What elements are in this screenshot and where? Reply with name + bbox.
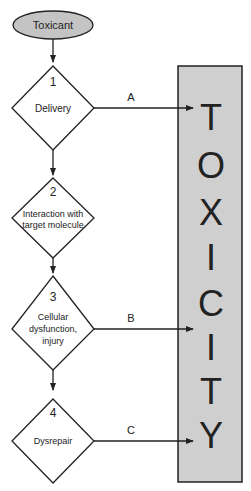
- svg-text:4: 4: [50, 406, 57, 420]
- svg-text:3: 3: [50, 290, 57, 304]
- svg-text:Delivery: Delivery: [35, 103, 71, 114]
- letter: T: [200, 371, 222, 412]
- step-1-delivery: 1 Delivery: [12, 66, 94, 150]
- step-3-cellular-dysfunction: 3 Cellular dysfunction, injury: [12, 276, 94, 370]
- letter: C: [198, 283, 224, 324]
- svg-text:C: C: [127, 424, 135, 436]
- step-2-interaction: 2 Interaction with target molecule: [12, 178, 94, 258]
- toxicant-label: Toxicant: [33, 19, 73, 31]
- letter: I: [206, 327, 216, 368]
- letter: T: [200, 97, 222, 138]
- letter: O: [197, 145, 225, 186]
- svg-text:target molecule: target molecule: [22, 220, 84, 230]
- svg-text:A: A: [127, 91, 135, 103]
- svg-text:dysfunction,: dysfunction,: [29, 324, 77, 334]
- svg-text:B: B: [127, 312, 134, 324]
- svg-text:Dysrepair: Dysrepair: [34, 436, 73, 446]
- svg-text:injury: injury: [42, 336, 64, 346]
- svg-text:Interaction with: Interaction with: [23, 209, 84, 219]
- toxicity-flowchart: T O X I C I T Y Toxicant 1 Delivery 2 In…: [0, 0, 251, 491]
- svg-text:2: 2: [50, 185, 57, 199]
- step-4-dysrepair: 4 Dysrepair: [12, 399, 94, 483]
- svg-text:1: 1: [50, 75, 57, 89]
- letter: Y: [199, 415, 223, 456]
- svg-text:Cellular: Cellular: [38, 312, 69, 322]
- letter: I: [206, 237, 216, 278]
- letter: X: [199, 192, 223, 233]
